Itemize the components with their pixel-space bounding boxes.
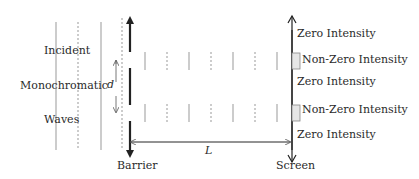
screen-region-zero-3: Zero Intensity [297, 129, 376, 140]
screen-region-zero-1: Zero Intensity [297, 28, 376, 39]
screen-region-nonzero-1: Non-Zero Intensity [302, 54, 408, 65]
slit-spacing-label: d [107, 79, 114, 90]
screen-region-nonzero-2: Non-Zero Intensity [302, 104, 408, 115]
incident-label: Incident [44, 45, 90, 56]
distance-label: L [205, 145, 212, 156]
diffracted-wavefronts [145, 52, 277, 122]
screen-region-zero-2: Zero Intensity [297, 76, 376, 87]
monochromatic-label: Monochromatic [20, 80, 108, 91]
waves-label: Waves [44, 114, 79, 125]
intensity-box-2 [292, 105, 300, 121]
barrier-label: Barrier [117, 160, 157, 171]
intensity-box-1 [292, 53, 300, 69]
screen-label: Screen [276, 160, 315, 171]
